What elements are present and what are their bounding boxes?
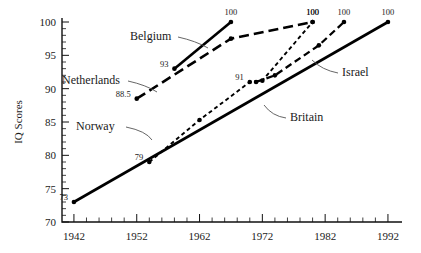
data-point-norway bbox=[247, 80, 252, 85]
y-tick-label: 95 bbox=[45, 49, 57, 61]
data-point-israel bbox=[254, 80, 259, 85]
iq-scores-line-chart: 707580859095100194219521962197219821992I… bbox=[0, 0, 421, 253]
series-line-britain bbox=[74, 22, 388, 202]
y-tick-label: 80 bbox=[45, 149, 57, 161]
series-label-netherlands: Netherlands bbox=[62, 73, 120, 87]
leader-line-norway bbox=[126, 127, 152, 140]
point-value-label: 91 bbox=[235, 72, 244, 82]
series-label-britain: Britain bbox=[290, 110, 323, 124]
data-point-belgium bbox=[172, 66, 177, 71]
x-tick-label: 1992 bbox=[377, 230, 399, 242]
x-tick-label: 1962 bbox=[189, 230, 211, 242]
point-value-label: 79 bbox=[135, 152, 144, 162]
data-point-norway bbox=[197, 118, 202, 123]
data-point-belgium bbox=[229, 20, 234, 25]
data-point-netherlands bbox=[310, 20, 315, 25]
point-value-label: 100 bbox=[382, 7, 395, 17]
y-tick-label: 100 bbox=[40, 16, 57, 28]
y-tick-label: 70 bbox=[45, 216, 57, 228]
series-label-belgium: Belgium bbox=[130, 29, 172, 43]
data-point-netherlands bbox=[229, 36, 234, 41]
point-value-label: 73 bbox=[59, 192, 68, 202]
series-label-norway: Norway bbox=[76, 119, 115, 133]
data-point-netherlands bbox=[134, 96, 139, 101]
series-label-israel: Israel bbox=[342, 65, 369, 79]
x-tick-label: 1972 bbox=[251, 230, 273, 242]
data-point-israel bbox=[317, 43, 322, 48]
point-value-label: 100 bbox=[225, 7, 238, 17]
data-point-israel bbox=[342, 20, 347, 25]
x-tick-label: 1942 bbox=[63, 230, 85, 242]
data-point-norway bbox=[147, 160, 152, 165]
point-value-label: 100 bbox=[306, 7, 319, 17]
x-tick-label: 1952 bbox=[126, 230, 148, 242]
y-tick-label: 90 bbox=[45, 83, 57, 95]
data-point-britain bbox=[72, 200, 77, 205]
leader-line-belgium bbox=[178, 37, 208, 48]
chart-canvas: 707580859095100194219521962197219821992I… bbox=[0, 0, 421, 253]
y-axis-title: IQ Scores bbox=[12, 100, 24, 144]
y-tick-label: 85 bbox=[45, 116, 57, 128]
point-value-label: 88.5 bbox=[116, 89, 131, 99]
point-value-label: 100 bbox=[338, 7, 351, 17]
data-point-britain bbox=[386, 20, 391, 25]
leader-line-netherlands bbox=[128, 81, 157, 92]
series-line-norway bbox=[149, 22, 312, 162]
point-value-label: 93 bbox=[160, 59, 169, 69]
leader-line-britain bbox=[264, 105, 286, 118]
x-tick-label: 1982 bbox=[314, 230, 336, 242]
data-point-israel bbox=[273, 73, 278, 78]
y-tick-label: 75 bbox=[45, 183, 57, 195]
